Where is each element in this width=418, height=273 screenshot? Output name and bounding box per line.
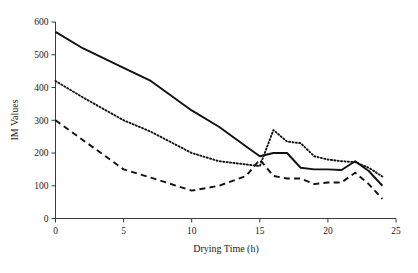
series-line-dotted <box>56 81 383 177</box>
line-chart: 0100200300400500600 0510152025 Drying Ti… <box>0 0 418 273</box>
axes <box>56 22 397 219</box>
x-axis-title: Drying Time (h) <box>193 243 259 255</box>
series-line-solid <box>56 32 383 186</box>
y-tick-label: 600 <box>34 17 49 27</box>
x-tick-label: 10 <box>187 226 197 236</box>
y-tick-label: 0 <box>44 214 49 224</box>
y-tick-label: 200 <box>34 148 49 158</box>
y-tick-label: 400 <box>34 83 49 93</box>
y-axis-title: IM Values <box>9 99 20 140</box>
y-tick-label: 300 <box>34 116 49 126</box>
x-tick-label: 20 <box>323 226 333 236</box>
data-series-group <box>56 32 383 199</box>
y-tick-label: 500 <box>34 50 49 60</box>
figure-container: 0100200300400500600 0510152025 Drying Ti… <box>0 0 418 273</box>
x-tick-label: 25 <box>391 226 401 236</box>
x-tick-label: 0 <box>53 226 58 236</box>
x-tick-label: 5 <box>121 226 126 236</box>
x-tick-label: 15 <box>255 226 265 236</box>
x-axis-ticks: 0510152025 <box>53 219 401 236</box>
series-line-dashed <box>56 120 383 199</box>
y-axis-ticks: 0100200300400500600 <box>34 17 55 224</box>
y-tick-label: 100 <box>34 181 49 191</box>
